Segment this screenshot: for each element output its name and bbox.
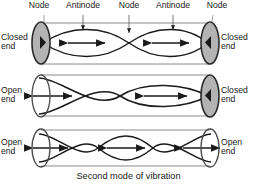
tube-1-graphics	[32, 15, 219, 64]
wave-2-lower	[39, 92, 208, 114]
tube-3-graphics	[32, 129, 220, 167]
tube-3-left-end-label: Open end	[1, 138, 22, 157]
top-label-antinode-2: Antinode	[148, 1, 198, 10]
tube-2-graphics	[32, 75, 219, 117]
tube-2-right-end-label: Closed end	[221, 86, 248, 105]
wave-3-lower	[39, 144, 211, 162]
standing-wave-figure: Node Antinode Node Antinode Node Closed …	[0, 0, 257, 189]
tube-2-left-end-label: Open end	[1, 86, 22, 105]
wave-2-upper	[39, 78, 208, 100]
tube-1-left-end-label: Closed end	[1, 33, 28, 52]
top-label-antinode-1: Antinode	[58, 1, 108, 10]
top-label-node-1: Node	[22, 1, 56, 10]
tube-3-right-end-label: Open end	[221, 138, 242, 157]
top-label-node-2: Node	[112, 1, 146, 10]
tube-1-right-end-label: Closed end	[221, 33, 248, 52]
figure-graphics	[0, 0, 257, 189]
wave-3-upper	[39, 134, 211, 152]
figure-caption: Second mode of vibration	[0, 172, 257, 182]
top-label-node-3: Node	[200, 1, 234, 10]
